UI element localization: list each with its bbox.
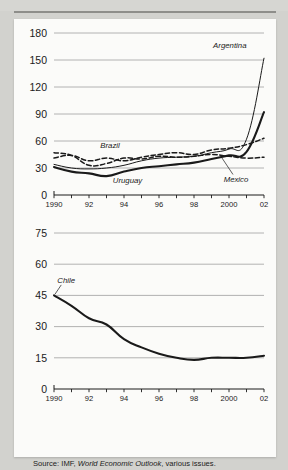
x-axis-tick-label: 1990 xyxy=(46,200,63,209)
x-axis-tick-label: 02 xyxy=(260,394,268,403)
y-axis-tick-label: 180 xyxy=(29,27,47,39)
series-line-uruguay xyxy=(54,112,264,176)
series-label-argentina: Argentina xyxy=(212,41,247,50)
figure-panel: 0306090120150180199092949698200002Argent… xyxy=(14,19,276,457)
y-axis-tick-label: 90 xyxy=(35,108,47,120)
y-axis-tick-label: 0 xyxy=(41,383,47,395)
x-axis-tick-label: 98 xyxy=(190,200,198,209)
chart-bottom: 01530456075199092949698200002Chile xyxy=(14,219,276,419)
series-label-brazil: Brazil xyxy=(100,141,120,150)
y-axis-tick-label: 60 xyxy=(35,258,47,270)
y-axis-tick-label: 120 xyxy=(29,81,47,93)
x-axis-tick-label: 96 xyxy=(155,394,163,403)
source-publication: World Economic Outlook xyxy=(78,459,162,468)
figure-page: 0306090120150180199092949698200002Argent… xyxy=(0,0,288,470)
y-axis-tick-label: 45 xyxy=(35,289,47,301)
series-label-uruguay: Uruguay xyxy=(113,176,144,185)
y-axis-tick-label: 75 xyxy=(35,227,47,239)
leader-line-mexico xyxy=(220,155,233,174)
x-axis-tick-label: 2000 xyxy=(221,394,238,403)
x-axis-tick-label: 2000 xyxy=(221,200,238,209)
x-axis-tick-label: 1990 xyxy=(46,394,63,403)
y-axis-tick-label: 0 xyxy=(41,189,47,201)
y-axis-tick-label: 150 xyxy=(29,54,47,66)
y-axis-tick-label: 30 xyxy=(35,162,47,174)
series-label-chile: Chile xyxy=(57,276,75,285)
y-axis-tick-label: 15 xyxy=(35,352,47,364)
x-axis-tick-label: 96 xyxy=(155,200,163,209)
header-rule xyxy=(14,11,276,13)
x-axis-tick-label: 98 xyxy=(190,394,198,403)
y-axis-tick-label: 30 xyxy=(35,320,47,332)
x-axis-tick-label: 94 xyxy=(120,200,128,209)
series-line-brazil xyxy=(54,138,264,161)
source-note: Source: IMF, World Economic Outlook, var… xyxy=(33,459,283,468)
source-prefix: Source: IMF, xyxy=(33,459,78,468)
x-axis-tick-label: 94 xyxy=(120,394,128,403)
x-axis-tick-label: 02 xyxy=(260,200,268,209)
chart-top: 0306090120150180199092949698200002Argent… xyxy=(14,19,276,219)
top-caption-strip xyxy=(0,0,288,11)
y-axis-tick-label: 60 xyxy=(35,135,47,147)
x-axis-tick-label: 92 xyxy=(85,200,93,209)
source-suffix: , various issues. xyxy=(161,459,215,468)
x-axis-tick-label: 92 xyxy=(85,394,93,403)
series-line-chile xyxy=(54,295,264,359)
leader-line-chile xyxy=(55,285,61,294)
series-label-mexico: Mexico xyxy=(224,175,249,184)
